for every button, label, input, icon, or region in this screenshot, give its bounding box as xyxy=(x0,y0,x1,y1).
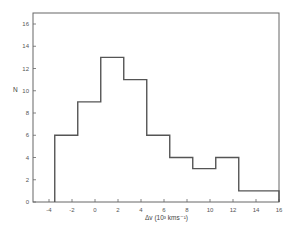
y-tick-label: 16 xyxy=(22,21,29,27)
y-tick-label: 14 xyxy=(22,43,29,49)
y-tick-label: 12 xyxy=(22,66,29,72)
y-axis-ticks: 0246810121416 xyxy=(22,21,36,205)
x-tick-label: -4 xyxy=(46,207,52,213)
x-tick-label: -2 xyxy=(69,207,75,213)
histogram-step-line xyxy=(55,57,279,202)
x-axis-ticks: -4-20246810121416 xyxy=(46,199,283,213)
x-tick-label: 10 xyxy=(207,207,214,213)
x-tick-label: 0 xyxy=(93,207,97,213)
y-tick-label: 6 xyxy=(26,132,30,138)
plot-border xyxy=(33,13,279,202)
x-tick-label: 14 xyxy=(253,207,260,213)
x-tick-label: 6 xyxy=(162,207,166,213)
x-axis-label: Δv (10³ kms⁻¹) xyxy=(145,214,188,222)
y-tick-label: 10 xyxy=(22,88,29,94)
y-tick-label: 8 xyxy=(26,110,30,116)
x-tick-label: 12 xyxy=(230,207,237,213)
x-tick-label: 4 xyxy=(139,207,143,213)
y-tick-label: 0 xyxy=(26,199,30,205)
x-tick-label: 16 xyxy=(276,207,283,213)
y-axis-label: N xyxy=(13,86,18,93)
plot-frame xyxy=(33,13,279,202)
x-tick-label: 8 xyxy=(185,207,189,213)
y-tick-label: 2 xyxy=(26,177,30,183)
y-tick-label: 4 xyxy=(26,155,30,161)
histogram-chart: 0246810121416 -4-20246810121416 N Δv (10… xyxy=(0,0,295,235)
x-tick-label: 2 xyxy=(116,207,120,213)
